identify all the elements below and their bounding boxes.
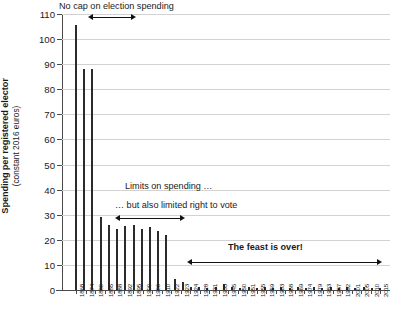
bar (157, 231, 159, 290)
x-tick-label: 2010 (373, 284, 380, 297)
x-tick-label: 2001 (354, 284, 361, 297)
x-tick-label: 1968 (287, 284, 294, 297)
x-tick-label: 1923 (183, 284, 190, 297)
x-tick-mark (304, 290, 305, 294)
x-tick-mark (190, 290, 191, 294)
x-tick-label: 1928 (202, 284, 209, 297)
x-tick-mark (95, 290, 96, 294)
x-tick-mark (143, 290, 144, 294)
annotation-limits-line2: … but also limited right to vote (115, 200, 237, 210)
x-tick-label: 1906 (154, 284, 161, 297)
x-tick-label: 2015 (382, 284, 389, 297)
x-axis-ticks: 1868187418801885188818921895190019061910… (62, 290, 390, 330)
x-tick-label: 1950 (240, 284, 247, 297)
x-tick-label: 1892 (126, 284, 133, 297)
x-tick-mark (114, 290, 115, 294)
x-tick-label: 1945 (230, 284, 237, 297)
x-tick-label: 1935 (221, 284, 228, 297)
bar (91, 69, 93, 290)
x-tick-mark (371, 290, 372, 294)
x-tick-label: 1868 (78, 284, 85, 297)
x-tick-label: 1979 (316, 284, 323, 297)
bar (165, 235, 167, 290)
x-tick-mark (219, 290, 220, 294)
x-tick-mark (257, 290, 258, 294)
x-tick-label: 1959 (268, 284, 275, 297)
x-tick-label: 1931 (211, 284, 218, 297)
x-tick-mark (266, 290, 267, 294)
x-tick-label: 1880 (97, 284, 104, 297)
y-tick-label: 0 (50, 285, 55, 296)
x-tick-label: 1974 (306, 284, 313, 297)
x-tick-mark (86, 290, 87, 294)
bar (100, 217, 102, 290)
y-tick-label: 80 (44, 84, 55, 95)
annotation-no-cap: No cap on election spending (59, 1, 174, 11)
x-tick-label: 1992 (344, 284, 351, 297)
y-axis-title-main: Spending per registered elector (0, 0, 11, 292)
x-tick-label: 1983 (325, 284, 332, 297)
y-tick-label: 60 (44, 134, 55, 145)
x-tick-label: 1888 (116, 284, 123, 297)
x-tick-mark (152, 290, 153, 294)
x-tick-mark (361, 290, 362, 294)
annotation-feast: The feast is over! (228, 242, 303, 252)
x-tick-mark (352, 290, 353, 294)
x-tick-label: 1969 (297, 284, 304, 297)
x-tick-label: 1910 (164, 284, 171, 297)
plot-area: 0102030405060708090100110 No cap on elec… (62, 14, 390, 290)
y-axis-title-sub: (constant 2016 euros) (11, 0, 21, 292)
y-tick-label: 40 (44, 184, 55, 195)
y-tick-label: 90 (44, 59, 55, 70)
x-tick-mark (133, 290, 134, 294)
y-tick-label: 70 (44, 109, 55, 120)
x-tick-mark (105, 290, 106, 294)
x-tick-label: 1895 (135, 284, 142, 297)
x-tick-label: 1922 (173, 284, 180, 297)
x-tick-mark (200, 290, 201, 294)
y-tick-label: 10 (44, 259, 55, 270)
x-tick-mark (342, 290, 343, 294)
x-tick-mark (285, 290, 286, 294)
x-tick-label: 1924 (192, 284, 199, 297)
y-tick-label: 100 (39, 34, 55, 45)
x-tick-mark (380, 290, 381, 294)
bar (75, 25, 77, 290)
x-tick-mark (76, 290, 77, 294)
x-tick-label: 1955 (259, 284, 266, 297)
bar-series (62, 14, 390, 290)
x-tick-label: 1900 (145, 284, 152, 297)
x-tick-mark (124, 290, 125, 294)
x-tick-label: 1874 (88, 284, 95, 297)
y-tick-label: 50 (44, 159, 55, 170)
x-tick-mark (228, 290, 229, 294)
bar (108, 225, 110, 290)
y-tick-label: 20 (44, 234, 55, 245)
x-tick-mark (181, 290, 182, 294)
bar (141, 229, 143, 290)
x-tick-label: 1963 (278, 284, 285, 297)
bar (83, 69, 85, 290)
bar (133, 225, 135, 290)
bar (124, 226, 126, 290)
x-tick-label: 1987 (335, 284, 342, 297)
x-tick-label: 1951 (249, 284, 256, 297)
x-tick-mark (323, 290, 324, 294)
annotation-limits-line1: Limits on spending … (125, 181, 212, 191)
x-tick-mark (247, 290, 248, 294)
x-tick-mark (295, 290, 296, 294)
y-tick-label: 110 (40, 9, 55, 20)
election-spending-chart: Spending per registered elector (constan… (0, 0, 394, 330)
x-tick-mark (276, 290, 277, 294)
bar (116, 229, 118, 290)
x-tick-label: 1885 (107, 284, 114, 297)
bar (149, 227, 151, 290)
x-tick-mark (171, 290, 172, 294)
x-tick-mark (162, 290, 163, 294)
x-tick-label: 2005 (363, 284, 370, 297)
x-tick-mark (238, 290, 239, 294)
y-tick-label: 30 (44, 209, 55, 220)
x-tick-mark (209, 290, 210, 294)
y-axis-title: Spending per registered elector (constan… (0, 0, 34, 300)
x-tick-mark (314, 290, 315, 294)
